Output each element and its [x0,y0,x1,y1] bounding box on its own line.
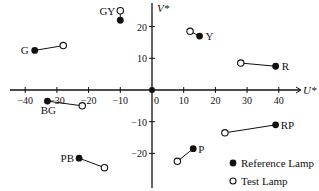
x-axis-label: U* [303,84,317,96]
shift-line-g [35,46,64,51]
point-label-p: P [198,143,204,155]
point-label-gy: GY [99,5,115,17]
y-tick-label: −10 [131,117,147,128]
test-point-r [238,60,244,66]
test-point-y [187,28,193,34]
legend-reference-label: Reference Lamp [241,157,314,169]
legend-test-marker-icon [230,178,236,184]
x-tick-label: 10 [179,95,189,106]
test-point-gy [117,8,123,14]
shift-line-r [241,63,276,66]
y-tick-label: −20 [131,148,147,159]
test-point-g [60,42,66,48]
reference-point-rp [272,121,279,128]
legend-test-label: Test Lamp [241,175,288,187]
x-tick-label: 0 [154,95,159,106]
x-tick-label: 40 [274,95,284,106]
test-point-rp [222,130,228,136]
reference-point-y [196,33,203,40]
y-tick-label: 20 [137,22,147,33]
legend-reference-marker-icon [230,160,237,167]
x-tick-label: −10 [112,95,128,106]
point-label-rp: RP [281,119,294,131]
point-label-y: Y [206,30,214,42]
reference-point-p [190,145,197,152]
x-tick-label: 20 [210,95,220,106]
test-point-p [174,158,180,164]
point-label-bg: BG [41,104,56,116]
shift-line-pb [79,158,104,168]
point-label-pb: PB [61,152,74,164]
point-label-r: R [282,60,290,72]
test-point-pb [101,164,107,170]
x-tick-label: −40 [17,95,33,106]
origin-marker [149,87,155,93]
y-axis-label: V* [157,2,170,14]
reference-point-gy [117,17,124,24]
y-tick-label: 10 [137,53,147,64]
reference-point-r [272,63,279,70]
reference-point-g [31,47,38,54]
x-tick-label: 30 [242,95,252,106]
test-point-bg [79,103,85,109]
chromaticity-shift-chart: U*V*−40−30−20−10010203040−20−101020GYGYR… [0,0,319,191]
point-label-g: G [21,44,29,56]
reference-point-pb [76,155,83,162]
shift-line-rp [225,125,276,133]
plot-area: U*V*−40−30−20−10010203040−20−101020GYGYR… [0,0,319,191]
